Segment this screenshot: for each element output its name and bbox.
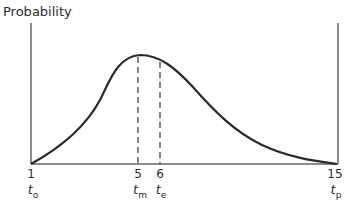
symbol-t-o: to <box>28 182 39 200</box>
tick-5: 5 <box>134 167 142 181</box>
distribution-curve <box>31 55 337 164</box>
symbol-t-m: tm <box>133 182 147 200</box>
tick-15: 15 <box>327 167 342 181</box>
symbol-t-e: te <box>156 182 167 200</box>
symbol-t-p: tp <box>331 182 342 200</box>
tick-1: 1 <box>27 167 35 181</box>
chart-plot <box>0 0 347 206</box>
tick-6: 6 <box>156 167 164 181</box>
